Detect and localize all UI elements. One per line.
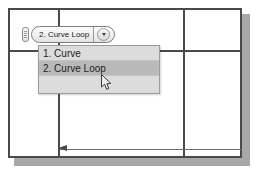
dimension-arrow-left-icon xyxy=(58,145,67,151)
construction-line-vertical-2 xyxy=(183,10,185,156)
dropdown-item-curve[interactable]: 1. Curve xyxy=(39,46,159,61)
drag-grip-icon[interactable] xyxy=(22,27,29,42)
curve-selector-combo[interactable]: 2. Curve Loop xyxy=(22,25,115,44)
chevron-down-icon[interactable] xyxy=(97,28,110,41)
combo-pill-body[interactable]: 2. Curve Loop xyxy=(31,26,115,43)
combo-selected-label: 2. Curve Loop xyxy=(32,27,94,42)
dropdown-item-curve-loop[interactable]: 2. Curve Loop xyxy=(39,61,159,76)
mouse-arrow-cursor xyxy=(101,74,113,91)
curve-dropdown-menu[interactable]: 1. Curve 2. Curve Loop xyxy=(38,45,160,94)
screenshot-root: 2. Curve Loop 1. Curve 2. Curve Loop xyxy=(0,0,256,173)
dropdown-empty-row xyxy=(39,76,159,93)
dimension-line[interactable] xyxy=(60,149,242,150)
